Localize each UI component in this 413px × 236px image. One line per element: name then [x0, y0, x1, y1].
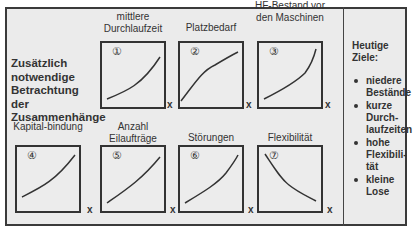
heading: Zusätzlich notwendige Betrachtung der Zu… — [11, 57, 99, 125]
chart-3: ③ — [257, 41, 323, 109]
chart-1-x-axis-label: x — [167, 99, 173, 110]
bullet-icon — [354, 79, 358, 83]
chart-7-curve — [259, 147, 321, 211]
chart-6-curve — [180, 147, 242, 211]
chart-7-label: Flexibilität — [253, 132, 327, 144]
goal-item: kleine Lose — [352, 174, 413, 198]
chart-2-x-axis-label: x — [246, 99, 252, 110]
chart-2: ② — [178, 41, 244, 109]
goal-text: hohe Flexibili-tät — [366, 137, 407, 172]
bullet-icon — [354, 104, 358, 108]
goal-text: niedere Bestände — [366, 75, 411, 98]
chart-4-x-axis-label: x — [87, 204, 93, 215]
goal-text: kleine Lose — [366, 174, 394, 197]
chart-1-curve — [102, 43, 164, 107]
goal-item: hohe Flexibili-tät — [352, 137, 413, 173]
chart-4: ④ — [15, 145, 81, 213]
bullet-icon — [354, 141, 358, 145]
bullet-icon — [354, 178, 358, 182]
chart-2-label: Platzbedarf — [174, 22, 248, 34]
chart-3-x-axis-label: x — [325, 99, 331, 110]
chart-4-label: Kapital-bindung — [13, 121, 83, 133]
chart-6-x-axis-label: x — [248, 204, 254, 215]
chart-7-x-axis-label: x — [327, 204, 333, 215]
goal-item: kurze Durch-laufzeiten — [352, 100, 413, 136]
goal-item: niedere Bestände — [352, 75, 413, 99]
chart-2-curve — [180, 43, 242, 107]
chart-5-x-axis-label: x — [170, 204, 176, 215]
goals-panel: Heutige Ziele: niedere Bestände kurze Du… — [352, 40, 413, 199]
goals-title: Heutige Ziele: — [352, 40, 396, 64]
divider — [343, 7, 344, 226]
chart-7: ⑦ — [257, 145, 323, 213]
chart-6: ⑥ — [178, 145, 244, 213]
chart-5-curve — [102, 147, 164, 211]
chart-5: ⑤ — [100, 145, 166, 213]
chart-3-label: HF-Bestand vor den Maschinen — [253, 0, 327, 24]
chart-4-curve — [17, 147, 79, 211]
chart-3-curve — [259, 43, 321, 107]
goal-text: kurze Durch-laufzeiten — [366, 100, 412, 135]
chart-6-label: Störungen — [174, 132, 248, 144]
chart-1: ① — [100, 41, 166, 109]
chart-5-label: Anzahl Eilaufträge — [96, 121, 170, 145]
chart-1-label: mittlere Durchlaufzeit — [96, 11, 170, 35]
goals-list: niedere Bestände kurze Durch-laufzeiten … — [352, 75, 413, 198]
